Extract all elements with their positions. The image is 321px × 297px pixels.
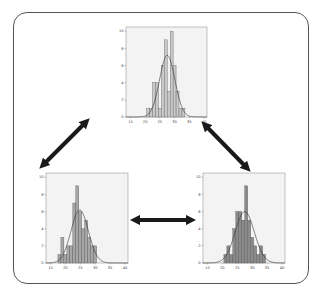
histogram-bar — [158, 108, 161, 117]
histogram-bar — [245, 186, 248, 263]
x-tick-label: 35 — [108, 266, 113, 270]
double-arrow-top-to-bottom-right — [205, 125, 247, 168]
histogram-bottom-right: 0246810152025303540 — [196, 173, 285, 270]
x-tick-label: 20 — [143, 120, 148, 124]
histogram-bar — [91, 246, 94, 263]
y-tick-label: 6 — [41, 210, 44, 214]
histogram-bar — [61, 237, 64, 263]
histogram-bar — [254, 246, 257, 263]
x-tick-label: 25 — [235, 266, 240, 270]
y-tick-label: 6 — [121, 64, 124, 68]
x-tick-label: 15 — [128, 120, 133, 124]
histogram-bar — [251, 237, 254, 263]
y-tick-label: 0 — [41, 261, 44, 265]
x-tick-label: 30 — [93, 266, 98, 270]
x-tick-label: 20 — [220, 266, 225, 270]
histogram-bar — [147, 108, 150, 117]
histogram-bar — [70, 246, 73, 263]
x-tick-label: 15 — [205, 266, 210, 270]
histogram-bar — [76, 186, 79, 263]
histogram-bar — [170, 31, 173, 117]
y-tick-label: 10 — [196, 175, 201, 179]
x-tick-label: 30 — [172, 120, 177, 124]
histogram-bar — [164, 40, 167, 117]
histogram-bar — [67, 246, 70, 263]
histogram-bottom-left: 0246810152025303540 — [39, 173, 128, 270]
y-tick-label: 2 — [121, 98, 123, 102]
y-tick-label: 4 — [198, 227, 201, 231]
y-tick-label: 6 — [198, 210, 201, 214]
x-tick-label: 20 — [63, 266, 68, 270]
x-tick-label: 40 — [280, 266, 285, 270]
histogram-bar — [257, 254, 260, 263]
histogram-bar — [224, 254, 227, 263]
histogram-bar — [263, 254, 266, 263]
y-tick-label: 10 — [119, 29, 124, 33]
histogram-bar — [150, 108, 153, 117]
x-tick-label: 35 — [187, 120, 192, 124]
histogram-bar — [242, 220, 245, 263]
x-tick-label: 35 — [265, 266, 270, 270]
histogram-bar — [179, 108, 182, 117]
x-tick-label: 15 — [48, 266, 53, 270]
diagram-canvas: 0246810152025303540024681015202530354002… — [0, 0, 321, 297]
y-tick-label: 10 — [39, 175, 44, 179]
x-tick-label: 30 — [250, 266, 255, 270]
histogram-bar — [73, 203, 76, 263]
histogram-bar — [82, 229, 85, 263]
y-tick-label: 8 — [121, 47, 124, 51]
histogram-bar — [236, 212, 239, 263]
histogram-bar — [230, 254, 233, 263]
y-tick-label: 2 — [198, 244, 200, 248]
histogram-bar — [248, 220, 251, 263]
histogram-bar — [182, 108, 185, 117]
histogram-bar — [64, 254, 67, 263]
double-arrow-top-to-bottom-left — [43, 122, 86, 165]
x-tick-label: 40 — [123, 266, 128, 270]
histogram-bar — [161, 66, 164, 117]
y-tick-label: 0 — [121, 115, 124, 119]
x-tick-label: 25 — [158, 120, 163, 124]
x-tick-label: 40 — [202, 120, 207, 124]
y-tick-label: 8 — [41, 193, 44, 197]
y-tick-label: 8 — [198, 193, 201, 197]
histogram-bar — [167, 91, 170, 117]
histogram-bar — [88, 237, 91, 263]
y-tick-label: 4 — [41, 227, 44, 231]
y-tick-label: 0 — [198, 261, 201, 265]
histogram-top: 0246810152025303540 — [119, 27, 207, 124]
y-tick-label: 2 — [41, 244, 43, 248]
histogram-bar — [79, 212, 82, 263]
x-tick-label: 25 — [78, 266, 83, 270]
y-tick-label: 4 — [121, 81, 124, 85]
